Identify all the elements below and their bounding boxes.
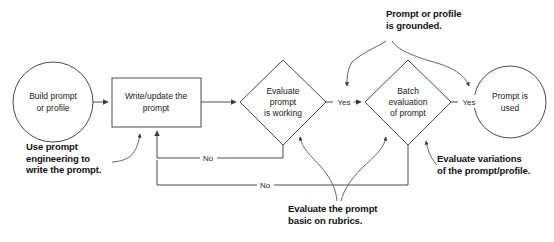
- callout-line-grounded-left: [347, 41, 386, 86]
- callout-line-rubrics-left: [300, 137, 337, 201]
- callout-variations: Evaluate variations of the prompt/profil…: [437, 153, 530, 176]
- edge-label-no-1: No: [203, 154, 214, 163]
- node-build-prompt-label-1: Build prompt: [29, 91, 77, 101]
- node-prompt-is-used: [474, 66, 546, 138]
- node-evaluate-label-1: Evaluate: [266, 86, 299, 96]
- node-evaluate-label-2: prompt: [270, 97, 297, 107]
- callout-grounded-line-1: Prompt or profile: [386, 8, 461, 20]
- callout-rubrics-line-1: Evaluate the prompt: [288, 203, 377, 215]
- edge-no1-loopback: [157, 131, 283, 158]
- node-batch-label-3: of prompt: [390, 108, 427, 118]
- node-batch-label-1: Batch: [397, 86, 419, 96]
- node-evaluate-label-3: is working: [264, 108, 302, 118]
- edge-label-yes-2: Yes: [462, 98, 475, 107]
- edge-label-no-2: No: [260, 181, 271, 190]
- node-prompt-used-label-2: used: [501, 103, 520, 113]
- edge-label-yes-1: Yes: [337, 98, 350, 107]
- callout-variations-line-1: Evaluate variations: [437, 153, 530, 165]
- callout-rubrics: Evaluate the prompt basic on rubrics.: [288, 203, 377, 226]
- callout-prompt-engineering: Use prompt engineering to write the prom…: [26, 141, 101, 176]
- callout-grounded-line-2: is grounded.: [386, 20, 461, 32]
- node-batch-label-2: evaluation: [389, 97, 428, 107]
- callout-prompt-engineering-line-3: write the prompt.: [26, 164, 101, 176]
- callout-grounded: Prompt or profile is grounded.: [386, 8, 461, 31]
- node-prompt-used-label-1: Prompt is: [492, 91, 528, 101]
- callout-line-prompt-engineering: [112, 134, 140, 162]
- callout-rubrics-line-2: basic on rubrics.: [288, 215, 377, 227]
- node-write-update-label-2: prompt: [143, 103, 170, 113]
- callout-line-rubrics-right: [341, 137, 386, 201]
- node-write-update-label-1: Write/update the: [125, 91, 187, 101]
- callout-prompt-engineering-line-1: Use prompt: [26, 141, 101, 153]
- node-build-prompt: [13, 62, 93, 142]
- callout-prompt-engineering-line-2: engineering to: [26, 153, 101, 165]
- flowchart-canvas: Build prompt or profile Write/update the…: [0, 0, 554, 242]
- node-build-prompt-label-2: or profile: [36, 103, 69, 113]
- callout-variations-line-2: of the prompt/profile.: [437, 165, 530, 177]
- callout-line-variations: [426, 141, 437, 165]
